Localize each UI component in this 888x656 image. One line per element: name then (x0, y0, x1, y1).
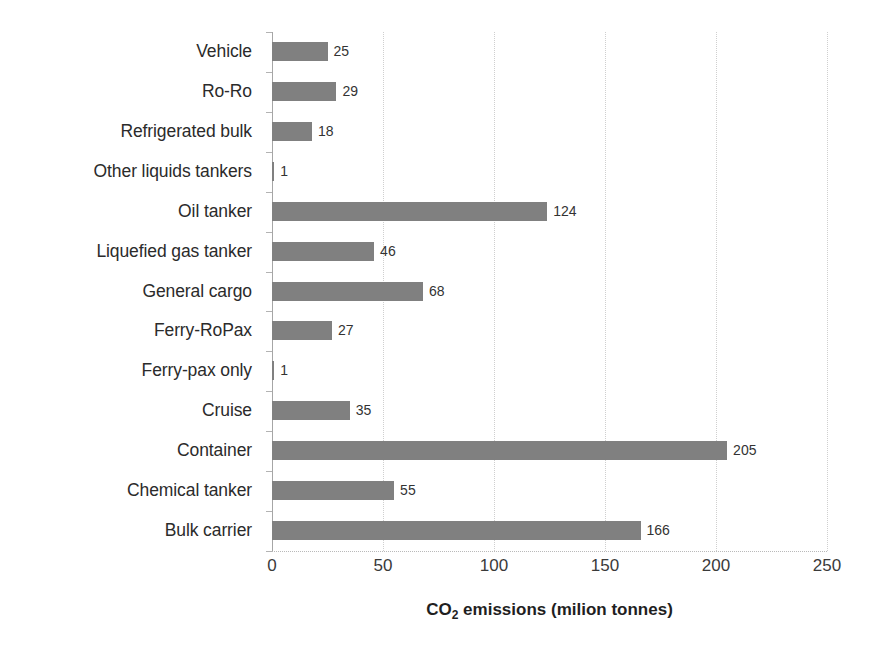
bar[interactable] (272, 481, 394, 500)
bar-value-label: 1 (274, 361, 288, 380)
category-label: Liquefied gas tanker (20, 243, 252, 261)
value-axis-tick-label: 150 (591, 556, 619, 576)
category-axis-tick (266, 551, 272, 552)
bar[interactable] (272, 242, 374, 261)
value-axis-tick-labels: 050100150200250 (272, 556, 827, 582)
bar-row[interactable]: 55 (272, 471, 827, 511)
category-label: Bulk carrier (20, 522, 252, 540)
gridline (827, 32, 828, 551)
bar-value-label: 205 (727, 441, 756, 460)
value-axis-title-pre: CO (426, 600, 452, 619)
bar[interactable] (272, 42, 328, 61)
bar-value-label: 18 (312, 122, 334, 141)
bar-row[interactable]: 46 (272, 232, 827, 272)
value-axis-tick-label: 200 (702, 556, 730, 576)
bar-row[interactable]: 1 (272, 152, 827, 192)
bar-row[interactable]: 25 (272, 32, 827, 72)
value-axis-tick-label: 50 (374, 556, 393, 576)
category-label: Chemical tanker (20, 482, 252, 500)
bar-value-label: 25 (328, 42, 350, 61)
bar-row[interactable]: 35 (272, 391, 827, 431)
category-label: Other liquids tankers (20, 163, 252, 181)
bar-row[interactable]: 18 (272, 112, 827, 152)
bar-value-label: 29 (336, 82, 358, 101)
value-axis-tick-label: 0 (267, 556, 276, 576)
category-label: Ferry-RoPax (20, 322, 252, 340)
bar-row[interactable]: 124 (272, 192, 827, 232)
bar[interactable] (272, 82, 336, 101)
bar-row[interactable]: 68 (272, 272, 827, 312)
category-label: Container (20, 442, 252, 460)
bar-row[interactable]: 1 (272, 351, 827, 391)
value-axis-tick-label: 100 (480, 556, 508, 576)
bar[interactable] (272, 122, 312, 141)
bar-chart: VehicleRo-RoRefrigerated bulkOther liqui… (0, 0, 888, 656)
bar[interactable] (272, 521, 641, 540)
bar-value-label: 124 (547, 202, 576, 221)
bar-row[interactable]: 166 (272, 511, 827, 551)
bar[interactable] (272, 202, 547, 221)
plot-area: 252918112446682713520555166 (272, 32, 827, 551)
bar-row[interactable]: 205 (272, 431, 827, 471)
bar[interactable] (272, 321, 332, 340)
category-axis-baseline (266, 551, 827, 552)
bar-value-label: 46 (374, 242, 396, 261)
category-label: Vehicle (20, 43, 252, 61)
bar-value-label: 35 (350, 401, 372, 420)
category-label: Ro-Ro (20, 83, 252, 101)
bar-row[interactable]: 27 (272, 311, 827, 351)
category-label: Cruise (20, 402, 252, 420)
value-axis-title-post: emissions (milion tonnes) (458, 600, 672, 619)
bar[interactable] (272, 441, 727, 460)
value-axis-tick-label: 250 (813, 556, 841, 576)
bar[interactable] (272, 282, 423, 301)
category-label: Refrigerated bulk (20, 123, 252, 141)
bar-value-label: 55 (394, 481, 416, 500)
category-label: Ferry-pax only (20, 362, 252, 380)
category-axis-labels: VehicleRo-RoRefrigerated bulkOther liqui… (20, 32, 252, 551)
bar[interactable] (272, 401, 350, 420)
value-axis-title: CO2 emissions (milion tonnes) (272, 600, 827, 620)
category-label: General cargo (20, 283, 252, 301)
value-axis-title-subscript: 2 (452, 608, 459, 622)
bar-row[interactable]: 29 (272, 72, 827, 112)
bar-value-label: 27 (332, 321, 354, 340)
category-label: Oil tanker (20, 203, 252, 221)
bar-value-label: 68 (423, 282, 445, 301)
bar-value-label: 1 (274, 162, 288, 181)
bar-value-label: 166 (641, 521, 670, 540)
